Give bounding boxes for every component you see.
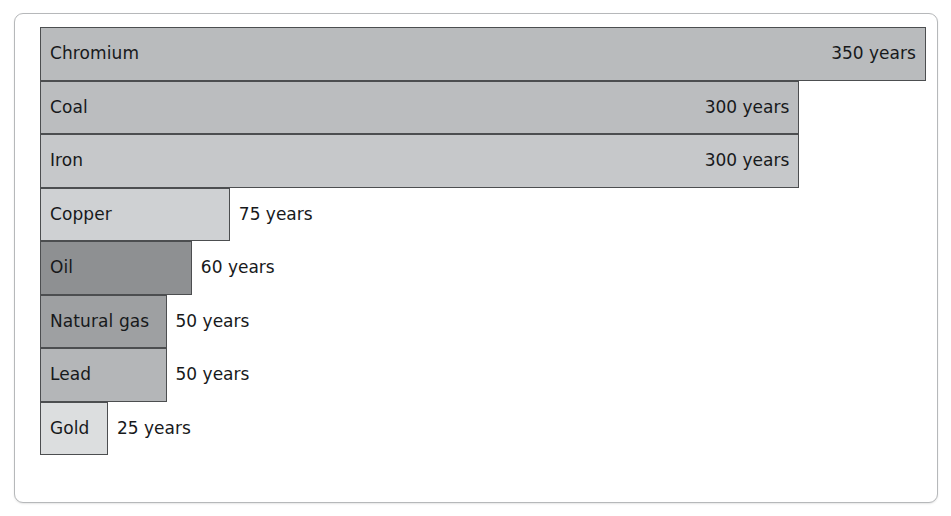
bar-category-label: Copper (50, 206, 112, 223)
bar-chart-plot: Chromium350 yearsCoal300 yearsIron300 ye… (40, 27, 930, 487)
bar-row: Copper75 years (40, 188, 930, 242)
bar-category-label: Oil (50, 259, 73, 276)
bar-row: Natural gas50 years (40, 295, 930, 349)
chart-frame: Chromium350 yearsCoal300 yearsIron300 ye… (14, 13, 938, 503)
bar-coal[interactable]: Coal300 years (40, 81, 799, 135)
bar-copper[interactable]: Copper (40, 188, 230, 242)
bar-lead[interactable]: Lead (40, 348, 167, 402)
bar-category-label: Gold (50, 420, 90, 437)
bar-category-label: Iron (50, 152, 83, 169)
bar-chromium[interactable]: Chromium350 years (40, 27, 926, 81)
bar-row: Oil60 years (40, 241, 930, 295)
bar-iron[interactable]: Iron300 years (40, 134, 799, 188)
bar-row: Iron300 years (40, 134, 930, 188)
bar-value-label: 50 years (167, 348, 250, 402)
bar-value-label: 50 years (167, 295, 250, 349)
bar-gold[interactable]: Gold (40, 402, 108, 456)
bar-row: Chromium350 years (40, 27, 930, 81)
bar-row: Coal300 years (40, 81, 930, 135)
bar-value-label: 60 years (192, 241, 275, 295)
bar-oil[interactable]: Oil (40, 241, 192, 295)
bar-category-label: Lead (50, 366, 91, 383)
bar-value-label: 75 years (230, 188, 313, 242)
bar-value-label: 300 years (705, 152, 790, 169)
bar-value-label: 25 years (108, 402, 191, 456)
bar-category-label: Coal (50, 99, 88, 116)
bar-category-label: Natural gas (50, 313, 149, 330)
bar-natural-gas[interactable]: Natural gas (40, 295, 167, 349)
bar-category-label: Chromium (50, 45, 139, 62)
bar-value-label: 300 years (705, 99, 790, 116)
bar-row: Gold25 years (40, 402, 930, 456)
bar-value-label: 350 years (831, 45, 916, 62)
bar-row: Lead50 years (40, 348, 930, 402)
